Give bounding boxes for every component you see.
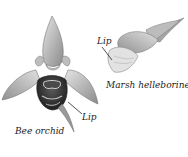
bee-orchid-label: Bee orchid [15, 127, 64, 136]
bee-orchid-lip-label: Lip [82, 113, 97, 122]
bee-orchid-lip-pointer [68, 102, 82, 114]
bee-orchid-left-sepal [2, 70, 40, 100]
bee-orchid-right-sepal [64, 70, 98, 104]
bee-orchid-top-sepal [43, 16, 64, 67]
marsh-helleborine-lip-label: Lip [97, 37, 112, 46]
marsh-helleborine-label: Marsh helleborine [106, 81, 188, 90]
bee-orchid-petal-right [62, 56, 70, 66]
marsh-helleborine-flower [108, 18, 184, 72]
bee-orchid-petal-left [35, 56, 44, 66]
